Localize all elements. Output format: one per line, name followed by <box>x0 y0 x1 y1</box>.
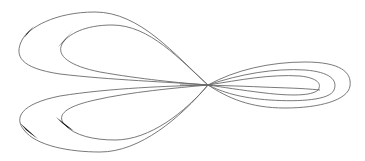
right-outer-loop <box>208 62 350 108</box>
bottom-outer-loop <box>20 85 208 152</box>
diagram-svg <box>0 0 365 161</box>
bottom-inner-loop <box>62 85 208 140</box>
bottom-inner-arrowhead-icon <box>56 117 74 131</box>
arrowhead-group <box>19 26 74 139</box>
curve-group <box>19 12 350 152</box>
bottom-outer-arrowhead-icon <box>20 123 38 139</box>
top-inner-arrowhead-icon <box>58 29 74 47</box>
loop-diagram <box>0 0 365 161</box>
